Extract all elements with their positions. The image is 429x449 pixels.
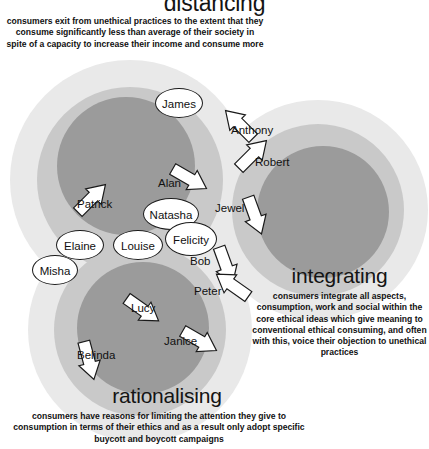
blob-core-rationalising: [77, 262, 209, 394]
person-name-label: Bob: [190, 255, 210, 267]
person-token-misha[interactable]: Misha: [32, 255, 78, 285]
person-token-lucy[interactable]: Lucy: [131, 303, 155, 315]
person-name-label: Anthony: [231, 124, 273, 136]
person-token-james[interactable]: James: [155, 88, 203, 118]
person-name-label: Robert: [255, 156, 290, 168]
person-name-label: Belinda: [77, 349, 115, 361]
person-name-label: Felicity: [165, 222, 217, 256]
section-body-rationalising: consumers have reasons for limiting the …: [6, 411, 312, 445]
section-body-integrating: consumers integrate all aspects, consump…: [250, 291, 429, 359]
person-name-label: Alan: [158, 177, 181, 189]
person-token-peter[interactable]: Peter: [194, 286, 222, 298]
diagram-canvas: distancing consumers exit from unethical…: [0, 0, 429, 449]
person-name-label: James: [155, 88, 203, 118]
person-name-label: Louise: [113, 230, 163, 260]
person-name-label: Janice: [164, 335, 197, 347]
person-token-patrick[interactable]: Patrick: [77, 199, 112, 211]
person-token-robert[interactable]: Robert: [255, 157, 290, 169]
person-token-alan[interactable]: Alan: [158, 178, 181, 190]
person-token-louise[interactable]: Louise: [113, 230, 163, 260]
section-title-integrating: integrating: [250, 265, 429, 286]
person-name-label: Lucy: [131, 302, 155, 314]
person-token-felicity[interactable]: Felicity: [165, 222, 217, 256]
person-name-label: Jewel: [215, 202, 244, 214]
person-token-jewel[interactable]: Jewel: [215, 203, 244, 215]
person-token-janice[interactable]: Janice: [164, 336, 197, 348]
person-token-bob[interactable]: Bob: [190, 256, 210, 268]
section-title-rationalising: rationalising: [22, 385, 312, 406]
section-body-distancing: consumers exit from unethical practices …: [6, 16, 264, 50]
person-name-label: Patrick: [77, 198, 112, 210]
person-name-label: Misha: [32, 255, 78, 285]
section-title-distancing: distancing: [0, 0, 429, 15]
person-token-anthony[interactable]: Anthony: [231, 125, 273, 137]
person-token-belinda[interactable]: Belinda: [77, 350, 115, 362]
person-name-label: Peter: [194, 285, 222, 297]
